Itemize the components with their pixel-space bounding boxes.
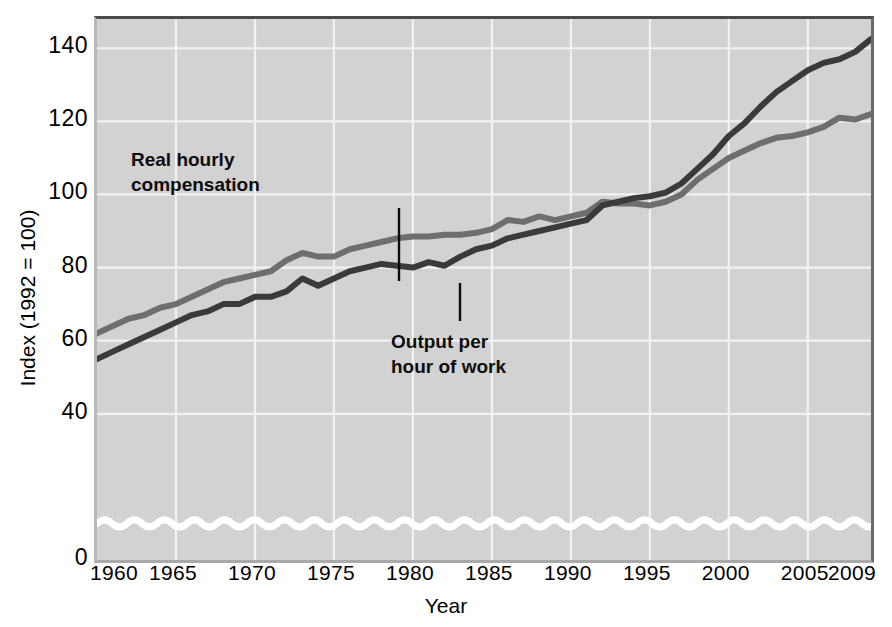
x-tick-label-1970: 1970: [228, 561, 276, 585]
x-axis-title: Year: [0, 594, 892, 618]
x-tick-label-1985: 1985: [465, 561, 513, 585]
x-axis-tick-labels: 1960196519701975198019851990199520002005…: [0, 0, 892, 627]
x-tick-label-2009: 2009: [828, 561, 876, 585]
x-tick-label-2000: 2000: [702, 561, 750, 585]
x-tick-label-1995: 1995: [623, 561, 671, 585]
x-tick-label-1990: 1990: [544, 561, 592, 585]
x-tick-label-1965: 1965: [149, 561, 197, 585]
annotation-output-per-hour-of-work: Output per hour of work: [391, 330, 506, 379]
annotation-real-hourly-compensation: Real hourly compensation: [131, 148, 260, 197]
x-tick-label-1960: 1960: [90, 561, 138, 585]
chart-figure: Index (1992 = 100) 0406080100120140 1960…: [0, 0, 892, 627]
x-tick-label-1975: 1975: [307, 561, 355, 585]
x-tick-label-2005: 2005: [781, 561, 829, 585]
x-tick-label-1980: 1980: [386, 561, 434, 585]
